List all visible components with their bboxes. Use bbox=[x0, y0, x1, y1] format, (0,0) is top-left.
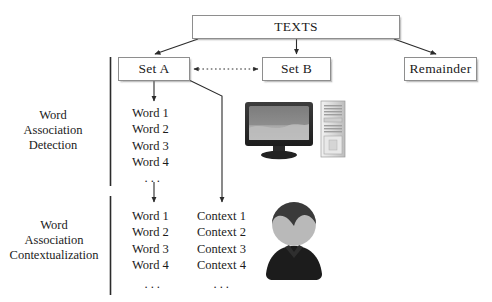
diagram-canvas: TEXTS Set A Set B Remainder Word Associa… bbox=[0, 0, 492, 302]
desktop-computer-illustration bbox=[243, 100, 347, 162]
stage-context-line-1: Word bbox=[0, 218, 108, 233]
list-item: Context 2 bbox=[197, 224, 246, 240]
stage-label-word-association-contextualization: Word Association Contextualization bbox=[0, 218, 108, 263]
word-list-contextualization: Word 1 Word 2 Word 3 Word 4 bbox=[132, 208, 169, 274]
person-avatar-illustration bbox=[263, 200, 325, 286]
node-set-b-label: Set B bbox=[281, 61, 312, 77]
stage-detection-line-2: Association bbox=[2, 123, 104, 138]
list-item: Context 4 bbox=[197, 257, 246, 273]
node-texts[interactable]: TEXTS bbox=[192, 15, 400, 39]
node-texts-label: TEXTS bbox=[274, 19, 318, 35]
node-set-a-label: Set A bbox=[138, 61, 169, 77]
list-item: Word 1 bbox=[132, 105, 169, 121]
list-item: Word 4 bbox=[132, 154, 169, 170]
node-remainder[interactable]: Remainder bbox=[404, 57, 477, 81]
stage-context-line-2: Association bbox=[0, 233, 108, 248]
list-item: Word 2 bbox=[132, 224, 169, 240]
stage-detection-line-3: Detection bbox=[2, 138, 104, 153]
word-list-contextualization-ellipsis: ··· bbox=[144, 280, 163, 295]
context-list-ellipsis: ··· bbox=[213, 280, 232, 295]
arrow-texts-to-set-a bbox=[155, 39, 198, 54]
list-item: Word 3 bbox=[132, 241, 169, 257]
list-item: Word 2 bbox=[132, 121, 169, 137]
word-list-detection-ellipsis: ··· bbox=[144, 174, 163, 189]
arrow-texts-to-remainder bbox=[394, 39, 436, 54]
list-item: Word 3 bbox=[132, 138, 169, 154]
arrow-set-a-to-context-list bbox=[189, 80, 222, 202]
node-remainder-label: Remainder bbox=[410, 61, 472, 77]
node-set-a[interactable]: Set A bbox=[118, 57, 190, 81]
stage-context-line-3: Contextualization bbox=[0, 248, 108, 263]
context-list: Context 1 Context 2 Context 3 Context 4 bbox=[197, 208, 246, 274]
node-set-b[interactable]: Set B bbox=[262, 57, 331, 81]
monitor-base bbox=[261, 151, 297, 159]
list-item: Context 3 bbox=[197, 241, 246, 257]
tower-power-button bbox=[329, 140, 337, 150]
word-list-detection: Word 1 Word 2 Word 3 Word 4 bbox=[132, 105, 169, 171]
person-body bbox=[266, 246, 322, 280]
list-item: Word 4 bbox=[132, 257, 169, 273]
stage-detection-line-1: Word bbox=[2, 108, 104, 123]
list-item: Context 1 bbox=[197, 208, 246, 224]
stage-label-word-association-detection: Word Association Detection bbox=[2, 108, 104, 153]
tower-optical-drive bbox=[324, 118, 342, 122]
list-item: Word 1 bbox=[132, 208, 169, 224]
